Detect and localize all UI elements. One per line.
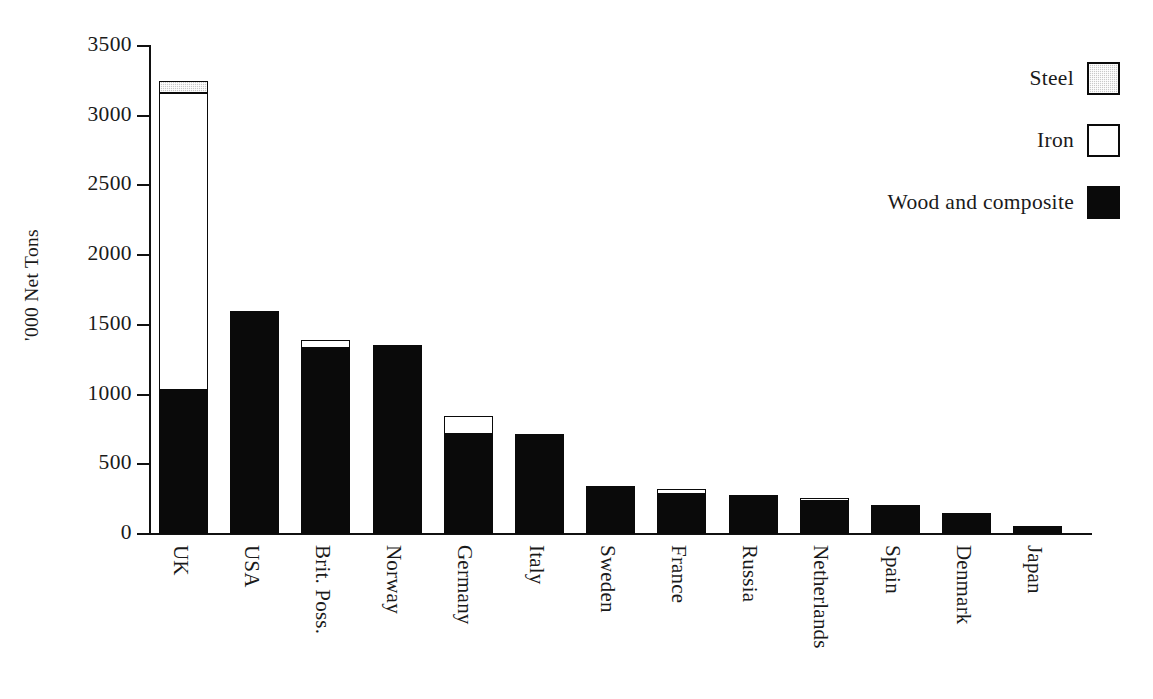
chart-figure: 0500100015002000250030003500 '000 Net To… bbox=[0, 0, 1153, 699]
bar-segment-iron bbox=[800, 498, 849, 501]
bar-segment-steel bbox=[159, 81, 208, 94]
x-axis-label-norway: Norway bbox=[381, 545, 406, 699]
white-square-icon bbox=[1087, 124, 1120, 157]
bar-germany[interactable] bbox=[444, 416, 493, 535]
bar-denmark[interactable] bbox=[942, 513, 991, 534]
y-axis-tick-label: 1000 bbox=[30, 383, 132, 404]
bar-russia[interactable] bbox=[729, 495, 778, 534]
y-axis-tick bbox=[137, 184, 150, 186]
x-axis-label-brit-poss: Brit. Poss. bbox=[310, 545, 335, 699]
y-axis-tick-label: 2500 bbox=[30, 173, 132, 194]
bar-segment-iron bbox=[657, 489, 706, 494]
bar-segment-wood-and-composite bbox=[159, 390, 208, 534]
bar-netherlands[interactable] bbox=[800, 498, 849, 534]
bar-segment-iron bbox=[159, 93, 208, 390]
y-axis-tick-label: 3500 bbox=[30, 34, 132, 55]
x-axis-label-italy: Italy bbox=[524, 545, 549, 699]
legend-item-wood-and-composite[interactable]: Wood and composite bbox=[888, 186, 1120, 219]
x-axis-label-france: France bbox=[666, 545, 691, 699]
x-axis-label-uk: UK bbox=[168, 545, 193, 699]
y-axis-tick-label: 3000 bbox=[30, 104, 132, 125]
bar-segment-wood-and-composite bbox=[444, 434, 493, 534]
y-axis-tick bbox=[137, 45, 150, 47]
y-axis-tick bbox=[137, 394, 150, 396]
legend-item-iron[interactable]: Iron bbox=[1037, 124, 1120, 157]
y-axis-tick-label: 1500 bbox=[30, 313, 132, 334]
black-square-icon bbox=[1087, 186, 1120, 219]
x-axis-label-russia: Russia bbox=[737, 545, 762, 699]
bar-segment-iron bbox=[444, 416, 493, 435]
bar-brit-poss[interactable] bbox=[301, 340, 350, 534]
bar-segment-iron bbox=[301, 340, 350, 348]
bar-segment-wood-and-composite bbox=[942, 513, 991, 534]
y-axis-tick-label: 0 bbox=[30, 522, 132, 543]
bar-segment-wood-and-composite bbox=[515, 434, 564, 534]
bar-norway[interactable] bbox=[373, 345, 422, 534]
y-axis-tick bbox=[137, 463, 150, 465]
stippled-gray-square-icon bbox=[1087, 62, 1120, 95]
bar-segment-wood-and-composite bbox=[373, 345, 422, 534]
plot-area: 0500100015002000250030003500 '000 Net To… bbox=[0, 0, 1153, 699]
legend-label: Wood and composite bbox=[888, 190, 1074, 215]
x-axis-label-japan: Japan bbox=[1022, 545, 1047, 699]
y-axis-tick bbox=[137, 254, 150, 256]
x-axis-label-germany: Germany bbox=[452, 545, 477, 699]
legend-label: Steel bbox=[1030, 66, 1075, 91]
bar-uk[interactable] bbox=[159, 81, 208, 534]
bar-segment-wood-and-composite bbox=[1013, 526, 1062, 534]
legend-item-steel[interactable]: Steel bbox=[1030, 62, 1121, 95]
bar-segment-wood-and-composite bbox=[301, 348, 350, 534]
x-axis-label-netherlands: Netherlands bbox=[808, 545, 833, 699]
x-axis-label-denmark: Denmark bbox=[951, 545, 976, 699]
y-axis-tick bbox=[137, 533, 150, 535]
y-axis-tick-label: 2000 bbox=[30, 243, 132, 264]
bar-segment-wood-and-composite bbox=[586, 486, 635, 534]
bar-spain[interactable] bbox=[871, 505, 920, 534]
y-axis-tick bbox=[137, 324, 150, 326]
y-axis-tick bbox=[137, 115, 150, 117]
y-axis-title: '000 Net Tons bbox=[21, 200, 43, 370]
bar-segment-wood-and-composite bbox=[230, 311, 279, 534]
bar-sweden[interactable] bbox=[586, 486, 635, 534]
bar-usa[interactable] bbox=[230, 311, 279, 534]
y-axis-tick-label: 500 bbox=[30, 452, 132, 473]
y-axis-line bbox=[149, 45, 151, 535]
legend-label: Iron bbox=[1037, 128, 1074, 153]
bar-segment-wood-and-composite bbox=[657, 494, 706, 534]
x-axis-label-usa: USA bbox=[239, 545, 264, 699]
bar-segment-wood-and-composite bbox=[729, 495, 778, 534]
x-axis-label-sweden: Sweden bbox=[595, 545, 620, 699]
bar-japan[interactable] bbox=[1013, 526, 1062, 534]
bar-segment-wood-and-composite bbox=[871, 505, 920, 534]
bar-france[interactable] bbox=[657, 489, 706, 534]
bar-segment-wood-and-composite bbox=[800, 501, 849, 534]
x-axis-label-spain: Spain bbox=[880, 545, 905, 699]
bar-italy[interactable] bbox=[515, 434, 564, 534]
